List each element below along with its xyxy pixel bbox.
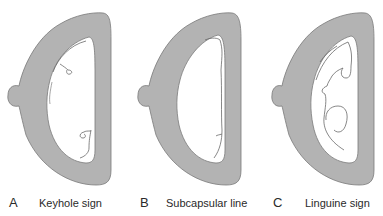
breast-implant-diagrams <box>0 0 383 216</box>
panel-a-breast-diagram <box>8 13 111 185</box>
panel-a-caption: Keyhole sign <box>39 197 102 209</box>
panel-c-caption: Linguine sign <box>305 197 370 209</box>
panel-c-letter: C <box>273 195 282 210</box>
panel-b-caption: Subcapsular line <box>166 197 247 209</box>
panel-b-letter: B <box>140 195 149 210</box>
panel-b-breast-diagram <box>138 13 241 185</box>
panel-a-letter: A <box>9 195 18 210</box>
panel-c-breast-diagram <box>272 13 374 185</box>
